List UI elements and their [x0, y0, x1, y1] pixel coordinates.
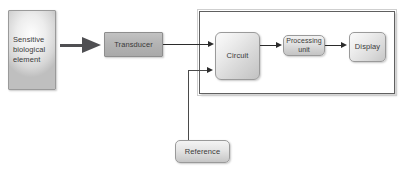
node-processing-unit[interactable]: Processing unit	[283, 35, 325, 56]
node-display[interactable]: Display	[349, 32, 386, 62]
node-circuit[interactable]: Circuit	[215, 32, 260, 80]
node-processing-unit-label: Processing unit	[286, 37, 322, 54]
node-reference[interactable]: Reference	[175, 140, 230, 163]
node-processing-unit-label-line2: unit	[298, 46, 310, 53]
connector-sensitive-to-transducer-arrowhead-icon	[82, 37, 101, 53]
node-display-label: Display	[355, 42, 380, 52]
node-circuit-label: Circuit	[227, 51, 249, 61]
node-reference-label: Reference	[185, 147, 221, 157]
node-sensitive-biological-element-label: Sensitive biological element	[13, 35, 45, 65]
connector-reference-to-circuit-horizontal	[188, 70, 209, 71]
node-processing-unit-label-line1: Processing	[286, 37, 322, 44]
connector-transducer-to-circuit-arrowhead-icon	[208, 41, 214, 47]
connector-processing-to-display-line	[325, 45, 342, 46]
diagram-canvas: Sensitive biological element Transducer …	[0, 0, 401, 175]
connector-transducer-to-circuit-line	[163, 44, 209, 45]
connector-circuit-to-processing-arrowhead-icon	[276, 42, 282, 48]
connector-reference-to-circuit-vertical	[188, 70, 189, 140]
connector-circuit-to-processing-line	[260, 45, 277, 46]
node-sensitive-biological-element[interactable]: Sensitive biological element	[8, 10, 56, 90]
node-transducer-label: Transducer	[114, 40, 153, 50]
connector-reference-to-circuit-arrowhead-icon	[207, 67, 213, 73]
node-transducer[interactable]: Transducer	[104, 32, 163, 57]
connector-processing-to-display-arrowhead-icon	[341, 42, 347, 48]
